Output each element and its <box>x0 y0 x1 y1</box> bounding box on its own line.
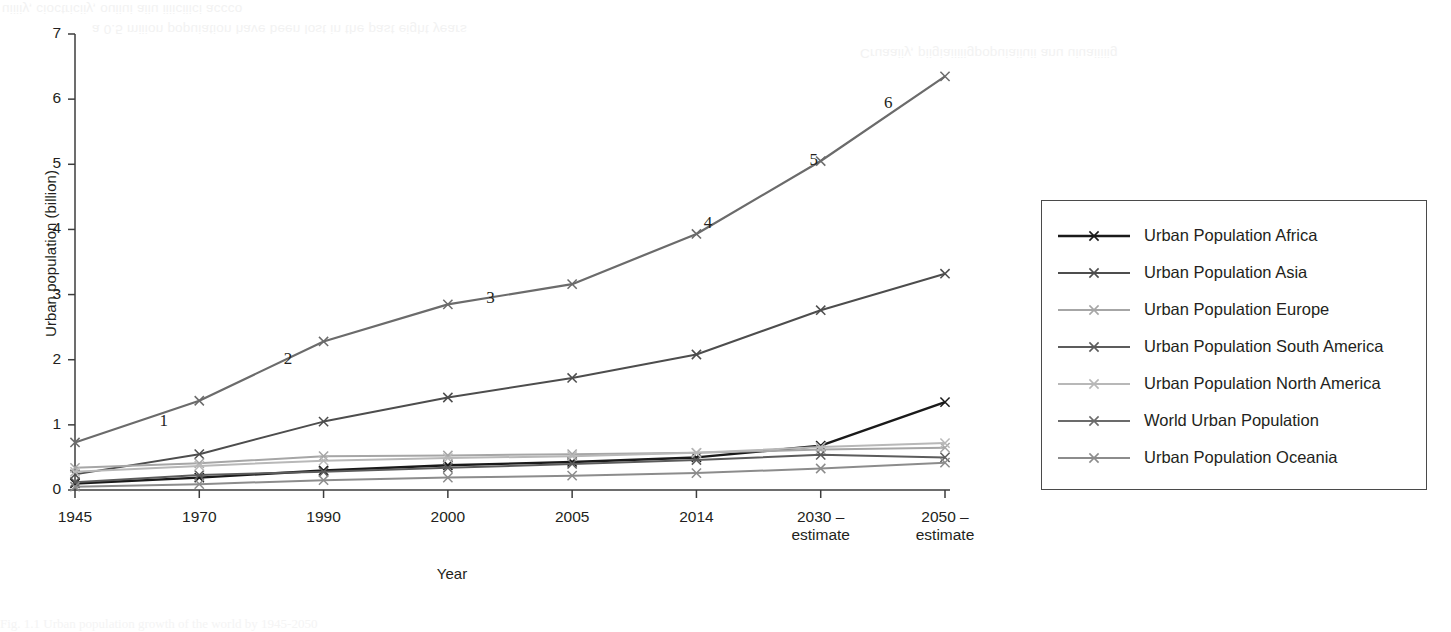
legend-line-marker-icon <box>1058 340 1130 354</box>
legend-item-label: World Urban Population <box>1144 411 1319 430</box>
legend-item-label: Urban Population North America <box>1144 374 1381 393</box>
legend-item[interactable]: Urban Population Oceania <box>1042 439 1426 476</box>
y-tick-label: 5 <box>33 154 61 172</box>
legend-item[interactable]: Urban Population Asia <box>1042 254 1426 291</box>
line-chart: Urban population (billion) Year 01234567… <box>0 0 1010 600</box>
x-tick-label-line1: 2000 <box>388 508 508 526</box>
axes <box>68 34 950 498</box>
chart-annotation: 4 <box>704 213 713 233</box>
y-tick-label: 1 <box>33 415 61 433</box>
legend-line-marker-icon <box>1058 303 1130 317</box>
x-tick-label: 1945 <box>15 508 135 526</box>
y-tick-label: 7 <box>33 24 61 42</box>
data-point-marker <box>940 72 949 81</box>
series-lines <box>70 72 949 492</box>
x-tick-label-line1: 1945 <box>15 508 135 526</box>
x-tick-label-line1: 2014 <box>636 508 756 526</box>
legend-line-marker-icon <box>1058 266 1130 280</box>
x-tick-label-line1: 1970 <box>139 508 259 526</box>
legend-line-marker-icon <box>1058 414 1130 428</box>
legend-item[interactable]: Urban Population South America <box>1042 328 1426 365</box>
data-point-marker <box>692 229 701 238</box>
y-tick-label: 0 <box>33 480 61 498</box>
x-axis-title: Year <box>392 565 512 582</box>
legend-item-label: Urban Population Europe <box>1144 300 1329 319</box>
x-tick-label: 2014 <box>636 508 756 526</box>
legend-line-marker-icon <box>1058 377 1130 391</box>
x-tick-label-line1: 2005 <box>512 508 632 526</box>
y-tick-label: 2 <box>33 350 61 368</box>
y-tick-label: 3 <box>33 285 61 303</box>
x-tick-label: 2050 –estimate <box>885 508 1005 544</box>
x-tick-label-line2: estimate <box>885 526 1005 544</box>
series-line <box>75 402 945 483</box>
y-tick-label: 4 <box>33 219 61 237</box>
x-tick-label: 1990 <box>264 508 384 526</box>
y-axis-title: Urban population (billion) <box>42 144 59 364</box>
legend-item[interactable]: World Urban Population <box>1042 402 1426 439</box>
series-line <box>75 274 945 475</box>
legend-item-label: Urban Population Asia <box>1144 263 1307 282</box>
chart-annotation: 3 <box>486 288 495 308</box>
legend-line-marker-icon <box>1058 451 1130 465</box>
y-tick-label: 6 <box>33 89 61 107</box>
x-tick-label: 2030 –estimate <box>761 508 881 544</box>
legend-item[interactable]: Urban Population North America <box>1042 365 1426 402</box>
chart-annotation: 2 <box>284 349 293 369</box>
chart-annotation: 6 <box>884 93 893 113</box>
chart-annotation: 1 <box>159 411 168 431</box>
x-tick-label-line2: estimate <box>761 526 881 544</box>
figure-caption-partial: Fig. 1.1 Urban population growth of the … <box>0 616 317 632</box>
x-tick-label: 1970 <box>139 508 259 526</box>
legend-line-marker-icon <box>1058 229 1130 243</box>
x-tick-label-line1: 2050 – <box>885 508 1005 526</box>
legend-item[interactable]: Urban Population Africa <box>1042 217 1426 254</box>
legend-item[interactable]: Urban Population Europe <box>1042 291 1426 328</box>
chart-legend: Urban Population AfricaUrban Population … <box>1041 200 1427 490</box>
chart-annotation: 5 <box>810 150 819 170</box>
legend-item-label: Urban Population Oceania <box>1144 448 1338 467</box>
x-tick-label: 2005 <box>512 508 632 526</box>
series-world-urban-population <box>70 72 949 447</box>
legend-item-label: Urban Population Africa <box>1144 226 1317 245</box>
legend-item-label: Urban Population South America <box>1144 337 1383 356</box>
x-tick-label-line1: 1990 <box>264 508 384 526</box>
x-tick-label: 2000 <box>388 508 508 526</box>
x-tick-label-line1: 2030 – <box>761 508 881 526</box>
series-line <box>75 443 945 472</box>
